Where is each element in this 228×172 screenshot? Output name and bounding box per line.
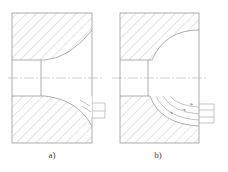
panel-b-lower-section — [120, 96, 199, 143]
panel-b-flow-arrows — [169, 104, 192, 113]
panel-a-lower-section — [12, 96, 92, 143]
technical-diagram — [0, 0, 228, 172]
panel-b — [112, 13, 214, 143]
panel-a-label: a) — [49, 151, 56, 160]
panel-b-label: b) — [154, 151, 162, 160]
panel-a-upper-section — [12, 13, 92, 60]
panel-a — [8, 13, 105, 143]
panel-b-exit-channel — [199, 104, 214, 123]
panel-a-exit-channel — [92, 103, 105, 118]
panel-b-upper-section — [120, 13, 199, 60]
